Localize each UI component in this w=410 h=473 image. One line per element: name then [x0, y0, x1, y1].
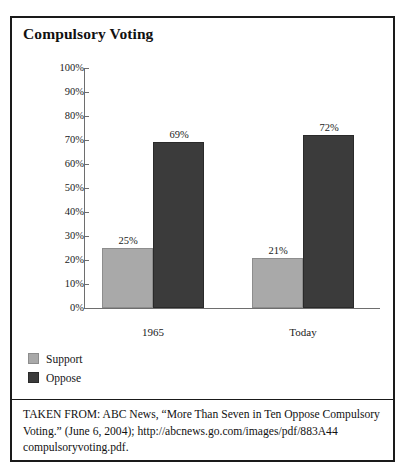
y-tick-0: 0% — [12, 303, 84, 313]
y-tick-label: 60% — [18, 159, 84, 169]
legend-item-oppose[interactable]: Oppose — [28, 369, 82, 386]
y-tick-mark — [84, 260, 89, 261]
y-tick-30: 30% — [12, 231, 84, 241]
page-title: Compulsory Voting — [23, 25, 153, 43]
bar-group-today: 21% 72% Today — [252, 68, 355, 308]
legend-swatch-icon — [28, 372, 39, 383]
bar-label-today-support: 21% — [248, 245, 308, 256]
y-tick-mark — [84, 116, 89, 117]
x-axis-line — [84, 308, 380, 309]
bar-1965-support[interactable] — [102, 248, 153, 308]
bar-slot-support: 21% — [252, 68, 303, 308]
bar-group-1965: 25% 69% 1965 — [102, 68, 205, 308]
y-tick-90: 90% — [12, 87, 84, 97]
y-tick-mark — [84, 212, 89, 213]
y-tick-label: 100% — [18, 63, 84, 73]
y-tick-60: 60% — [12, 159, 84, 169]
y-tick-70: 70% — [12, 135, 84, 145]
legend-label: Support — [46, 353, 82, 365]
source-divider — [12, 399, 393, 400]
chart-plot-area: 100% 90% 80% 70% 60% 50% 40% 30% — [12, 56, 393, 336]
y-tick-label: 40% — [18, 207, 84, 217]
y-tick-label: 20% — [18, 255, 84, 265]
y-tick-mark — [84, 236, 89, 237]
y-tick-100: 100% — [12, 63, 84, 73]
y-tick-mark — [84, 284, 89, 285]
y-tick-mark — [84, 188, 89, 189]
y-tick-label: 70% — [18, 135, 84, 145]
y-tick-label: 30% — [18, 231, 84, 241]
source-citation: TAKEN FROM: ABC News, “More Than Seven i… — [23, 407, 385, 457]
category-label-1965: 1965 — [93, 326, 213, 338]
y-tick-label: 90% — [18, 87, 84, 97]
y-tick-label: 80% — [18, 111, 84, 121]
y-tick-mark — [84, 308, 89, 309]
bar-label-1965-support: 25% — [98, 235, 158, 246]
y-tick-mark — [84, 68, 89, 69]
bar-slot-oppose: 72% — [303, 68, 354, 308]
bar-today-support[interactable] — [252, 258, 303, 308]
bar-slot-support: 25% — [102, 68, 153, 308]
legend-swatch-icon — [28, 353, 39, 364]
y-tick-mark — [84, 164, 89, 165]
y-tick-80: 80% — [12, 111, 84, 121]
bar-1965-oppose[interactable] — [153, 142, 204, 308]
legend-label: Oppose — [46, 372, 81, 384]
y-tick-mark — [84, 140, 89, 141]
category-label-today: Today — [243, 326, 363, 338]
legend-item-support[interactable]: Support — [28, 350, 82, 367]
y-tick-label: 50% — [18, 183, 84, 193]
y-tick-50: 50% — [12, 183, 84, 193]
chart-legend: Support Oppose — [28, 350, 82, 388]
y-tick-label: 0% — [18, 303, 84, 313]
bar-label-1965-oppose: 69% — [149, 129, 209, 140]
bar-label-today-oppose: 72% — [299, 122, 359, 133]
bar-slot-oppose: 69% — [153, 68, 204, 308]
y-tick-mark — [84, 92, 89, 93]
y-tick-40: 40% — [12, 207, 84, 217]
bar-today-oppose[interactable] — [303, 135, 354, 308]
figure-frame: Compulsory Voting 100% 90% 80% 70% 60% 5… — [10, 16, 395, 462]
y-tick-20: 20% — [12, 255, 84, 265]
y-tick-label: 10% — [18, 279, 84, 289]
y-tick-10: 10% — [12, 279, 84, 289]
